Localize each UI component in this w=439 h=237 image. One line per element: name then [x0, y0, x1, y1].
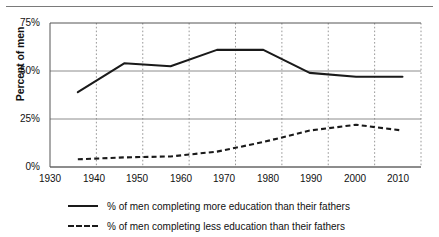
legend-swatch-dashed-line-icon: [68, 221, 98, 231]
legend-item-less-education: % of men completing less education than …: [0, 216, 439, 236]
grid-lines: [50, 23, 421, 167]
legend-swatch-solid-line-icon: [68, 201, 98, 211]
legend-item-more-education: % of men completing more education than …: [0, 196, 439, 216]
legend-label-more-education: % of men completing more education than …: [107, 201, 350, 212]
chart-legend: % of men completing more education than …: [0, 196, 439, 236]
vertical-gridlines: [96, 23, 421, 167]
legend-label-less-education: % of men completing less education than …: [107, 221, 345, 232]
series-line-less-education: [78, 125, 403, 160]
chart-figure: Percent of men 75% 50% 25% 0% 1930 1940 …: [0, 0, 439, 237]
